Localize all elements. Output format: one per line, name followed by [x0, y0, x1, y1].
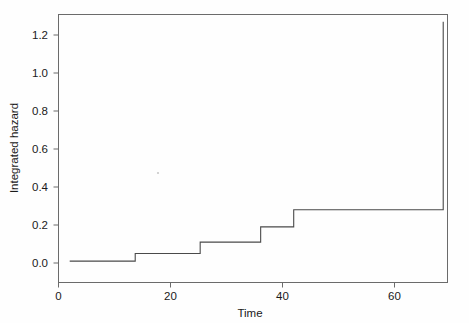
- y-tick-label: 0.4: [32, 181, 49, 193]
- y-tick-label: 0.0: [32, 257, 48, 269]
- plot-canvas: 0.0 0.2 0.4 0.6 0.8 1.0 1.2 0 20 40 60 T…: [0, 0, 469, 323]
- x-tick-label: 40: [276, 290, 289, 302]
- x-axis-tick-labels: 0 20 40 60: [55, 290, 401, 302]
- scan-speck: [157, 172, 159, 174]
- y-axis-tick-labels: 0.0 0.2 0.4 0.6 0.8 1.0 1.2: [32, 29, 49, 269]
- y-tick-label: 1.2: [32, 29, 48, 41]
- x-tick-label: 20: [164, 290, 177, 302]
- y-tick-label: 0.6: [32, 143, 48, 155]
- integrated-hazard-step-curve: [70, 22, 444, 261]
- y-axis-title: Integrated hazard: [8, 103, 20, 193]
- y-tick-label: 1.0: [32, 67, 48, 79]
- y-tick-label: 0.2: [32, 219, 48, 231]
- hazard-step-chart-figure: 0.0 0.2 0.4 0.6 0.8 1.0 1.2 0 20 40 60 T…: [0, 0, 469, 323]
- x-axis-ticks: [59, 283, 395, 288]
- x-tick-label: 0: [55, 290, 61, 302]
- x-axis-title: Time: [237, 307, 262, 319]
- y-tick-label: 0.8: [32, 105, 48, 117]
- x-tick-label: 60: [388, 290, 401, 302]
- y-axis-ticks: [54, 35, 59, 263]
